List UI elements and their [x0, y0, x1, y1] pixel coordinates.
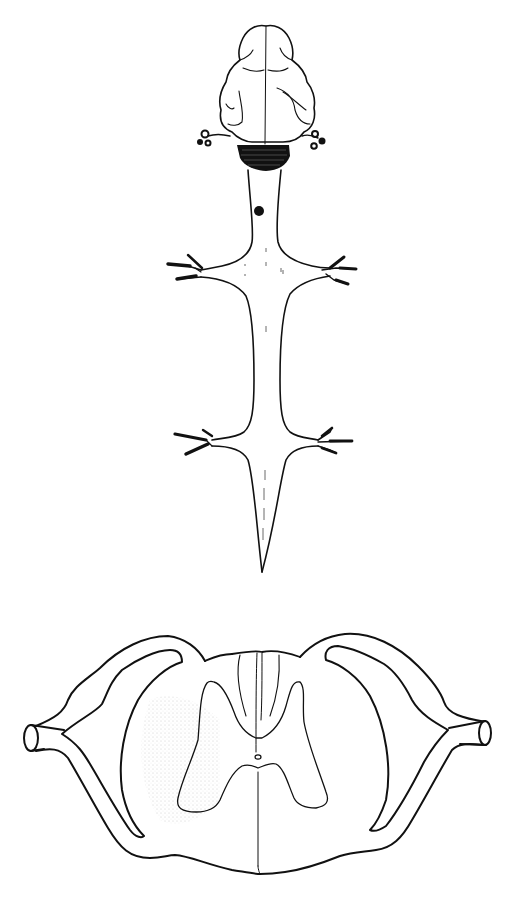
spinal-nerve-right	[260, 634, 491, 874]
anatomy-diagram	[0, 0, 517, 898]
lumbosacral-nerve-roots-right	[318, 428, 352, 453]
cross-section-panel	[24, 634, 491, 874]
spinal-cord	[201, 170, 330, 572]
lesion-marker	[254, 206, 264, 216]
brachial-nerve-roots-right	[322, 257, 356, 284]
central-canal	[255, 755, 261, 759]
cerebellum	[237, 145, 290, 171]
brain	[220, 26, 315, 145]
lumbosacral-nerve-roots-left	[175, 430, 212, 454]
gray-matter	[141, 681, 327, 824]
dorsal-view-panel	[168, 26, 356, 573]
brachial-nerve-roots-left	[168, 255, 202, 279]
